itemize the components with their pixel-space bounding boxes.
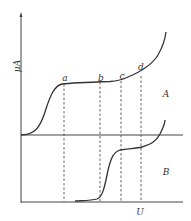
- point-label-c: c: [119, 71, 124, 81]
- curve-b: [75, 120, 165, 201]
- curve-label-a: A: [162, 89, 170, 99]
- y-axis-label: μA: [12, 59, 22, 72]
- point-label-d: d: [138, 62, 144, 72]
- curve-label-b: B: [162, 167, 170, 177]
- point-label-a: a: [62, 73, 67, 83]
- y-axis-arrow-icon: [20, 12, 23, 17]
- curve-a: [21, 32, 166, 135]
- point-label-b: b: [98, 73, 104, 83]
- x-axis-label: U: [136, 207, 144, 217]
- current-voltage-diagram: μA a b c d A B U: [0, 0, 191, 221]
